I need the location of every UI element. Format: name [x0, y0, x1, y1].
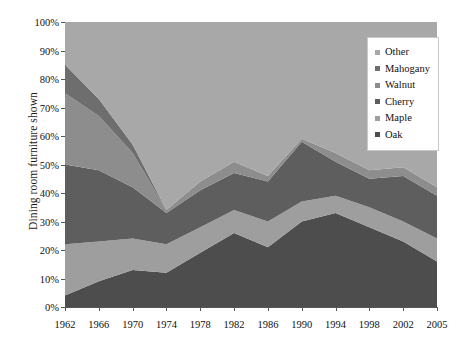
- x-axis-tick-label: 1990: [291, 319, 312, 330]
- x-axis-tick-label: 1962: [55, 319, 76, 330]
- stacked-area-chart: Dining room furniture shown 0%10%20%30%4…: [0, 0, 462, 352]
- y-axis-tick-labels: 0%10%20%30%40%50%60%70%80%90%100%: [17, 0, 59, 352]
- y-axis-tick-label: 40%: [19, 188, 59, 199]
- legend-item-cherry[interactable]: Cherry: [375, 94, 432, 111]
- x-axis-tick-label: 1978: [190, 319, 211, 330]
- legend-item-maple[interactable]: Maple: [375, 110, 432, 127]
- y-axis-tick-label: 100%: [19, 17, 59, 28]
- x-axis-tick-label: 2002: [393, 319, 414, 330]
- y-axis-tick-label: 50%: [19, 159, 59, 170]
- x-axis-tick-label: 1986: [257, 319, 278, 330]
- legend-swatch-icon: [375, 132, 380, 137]
- legend-item-mahogany[interactable]: Mahogany: [375, 61, 432, 78]
- legend-item-oak[interactable]: Oak: [375, 127, 432, 144]
- y-axis-tick-label: 70%: [19, 102, 59, 113]
- legend-item-walnut[interactable]: Walnut: [375, 77, 432, 94]
- x-axis-tick-label: 1974: [156, 319, 177, 330]
- legend-item-label: Other: [385, 47, 409, 58]
- legend-swatch-icon: [375, 116, 380, 121]
- y-axis-tick-label: 20%: [19, 245, 59, 256]
- chart-legend: OtherMahoganyWalnutCherryMapleOak: [367, 37, 439, 151]
- y-axis-tick-label: 90%: [19, 45, 59, 56]
- x-axis-tick-label: 1998: [359, 319, 380, 330]
- x-axis-tick-labels: 1962196619701974197819821986199019941998…: [0, 313, 462, 333]
- y-axis-tick-label: 60%: [19, 131, 59, 142]
- x-axis-tick-label: 1966: [88, 319, 109, 330]
- x-axis-tick-label: 1982: [224, 319, 245, 330]
- legend-swatch-icon: [375, 66, 380, 71]
- legend-item-label: Maple: [385, 113, 412, 124]
- x-axis-tick-label: 1970: [122, 319, 143, 330]
- y-axis-tick-label: 0%: [19, 302, 59, 313]
- legend-item-other[interactable]: Other: [375, 44, 432, 61]
- y-axis-tick-label: 30%: [19, 216, 59, 227]
- legend-item-label: Walnut: [385, 80, 415, 91]
- legend-item-label: Cherry: [385, 97, 414, 108]
- x-axis-tick-label: 1994: [325, 319, 346, 330]
- legend-item-label: Mahogany: [385, 64, 430, 75]
- legend-swatch-icon: [375, 50, 380, 55]
- legend-swatch-icon: [375, 83, 380, 88]
- legend-swatch-icon: [375, 99, 380, 104]
- y-axis-tick-label: 80%: [19, 74, 59, 85]
- y-axis-tick-label: 10%: [19, 273, 59, 284]
- legend-item-label: Oak: [385, 130, 403, 141]
- x-axis-tick-label: 2005: [427, 319, 448, 330]
